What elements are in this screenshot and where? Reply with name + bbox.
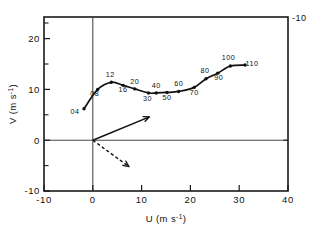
hodograph-figure: -10 0 10 20 30 40 -10 0 10 20 -10 U (m s… [0, 0, 313, 235]
data-point [82, 107, 85, 110]
x-tick-label: 10 [136, 194, 148, 205]
data-point-label: 100 [222, 53, 236, 62]
y-tick-label: 0 [34, 135, 40, 146]
x-axis-title-main: U (m s [146, 213, 176, 224]
data-point [110, 81, 113, 84]
x-tick-label: 20 [185, 194, 197, 205]
y-tick-label: -10 [24, 185, 40, 196]
data-point-label: 16 [119, 85, 128, 94]
data-point [177, 90, 180, 93]
data-point-label: 40 [152, 81, 161, 90]
chart-canvas: -10 0 10 20 30 40 -10 0 10 20 -10 U (m s… [0, 0, 313, 235]
data-point [155, 91, 158, 94]
x-axis-major-ticks [44, 185, 288, 191]
x-tick-label: 0 [90, 194, 96, 205]
data-point-label: 12 [106, 70, 115, 79]
x-tick-label: 40 [282, 194, 294, 205]
x-tick-labels: -10 0 10 20 30 40 [36, 194, 294, 205]
plot-frame [44, 17, 288, 191]
secondary-vector-shaft [93, 140, 129, 166]
data-point-label: 110 [246, 59, 259, 68]
data-point-label: 04 [71, 107, 80, 116]
x-axis-title-tail: ) [183, 213, 187, 224]
hodograph-series: 040812162030405060708090100110 [71, 53, 259, 116]
x-tick-label: 30 [233, 194, 245, 205]
data-point-label: 90 [214, 73, 223, 82]
y-axis-title-tail: ) [7, 84, 18, 88]
data-point-label: 30 [143, 94, 152, 103]
data-point-label: 20 [130, 77, 139, 86]
vector-annotations [93, 117, 150, 167]
data-point [133, 87, 136, 90]
data-point-label: 60 [174, 79, 183, 88]
data-point-label: 08 [90, 89, 99, 98]
mean-wind-vector-shaft [93, 117, 150, 140]
data-point [229, 64, 232, 67]
data-point-label: 50 [162, 93, 171, 102]
data-point-label: 70 [190, 88, 199, 97]
y-axis-title-main: V (m s [7, 94, 18, 124]
data-point-label: 80 [201, 66, 210, 75]
x-axis-title: U (m s-1) [146, 213, 187, 225]
y-axis-title: V (m s-1) [7, 84, 19, 124]
y-tick-label: 20 [28, 33, 40, 44]
data-point [204, 77, 207, 80]
top-right-corner-label: -10 [292, 13, 307, 23]
y-tick-label: 10 [28, 84, 40, 95]
y-tick-labels: -10 0 10 20 [24, 33, 40, 196]
